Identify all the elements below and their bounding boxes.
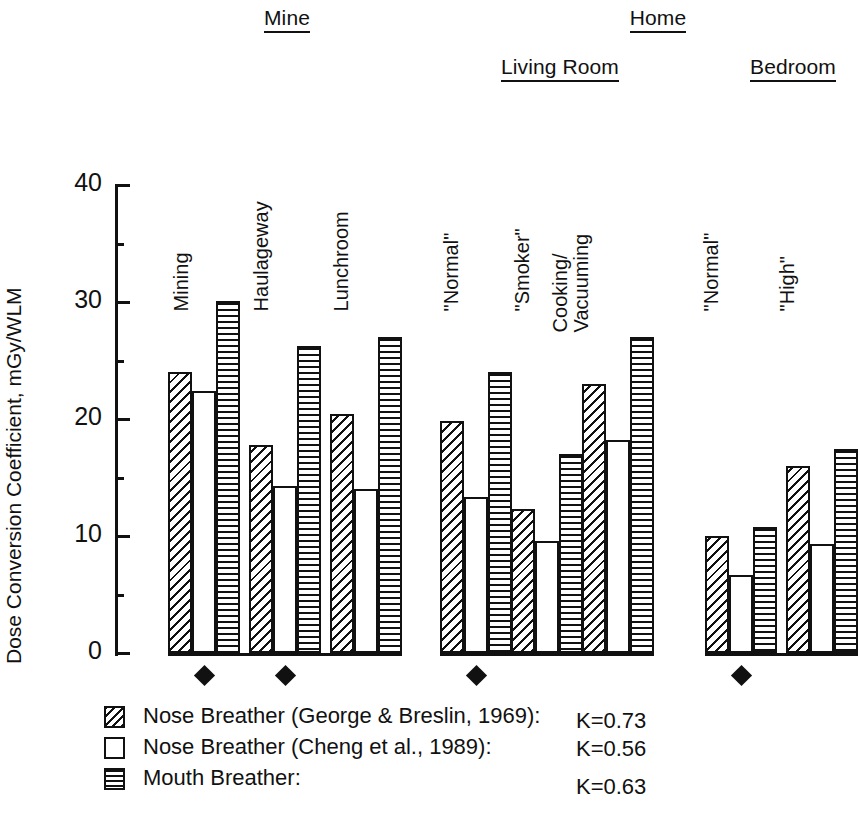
bar-nose-breather-george-breslin (249, 445, 273, 653)
bar-nose-breather-george-breslin (168, 372, 192, 653)
bar-nose-breather-george-breslin (330, 414, 354, 653)
category-label-lr-smoker-text: "Smoker" (511, 228, 533, 311)
y-axis-title: Dose Conversion Coefficient, mGy/WLM (2, 287, 26, 664)
legend: Nose Breather (George & Breslin, 1969): … (104, 703, 804, 796)
diamond-marker-icon (466, 665, 487, 686)
y-tick-0-text: 0 (88, 636, 102, 664)
bar-nose-breather-cheng (464, 497, 488, 653)
bar-mouth-breather (488, 372, 512, 653)
horizontal-stripe-swatch-icon (104, 768, 125, 790)
bar-mouth-breather (559, 454, 583, 653)
y-tick-0: 0 (42, 636, 102, 665)
bar-mouth-breather (216, 301, 240, 653)
category-label-haulageway: Haulageway (251, 201, 272, 311)
bar-nose-breather-cheng (729, 575, 753, 653)
legend-row-label: Mouth Breather: (143, 765, 301, 791)
y-tick-20-text: 20 (74, 402, 102, 430)
bar-mouth-breather (297, 346, 321, 653)
legend-row: Nose Breather (Cheng et al., 1989): K=0.… (104, 734, 804, 765)
open-white-swatch-icon (104, 737, 125, 759)
bar-nose-breather-george-breslin (582, 384, 606, 653)
category-label-lr-normal: "Normal" (441, 233, 462, 312)
category-label-lr-smoker: "Smoker" (512, 228, 533, 311)
legend-row-label: Nose Breather (George & Breslin, 1969): (143, 703, 540, 729)
header-living-room-label: Living Room (501, 55, 619, 82)
legend-row-label: Nose Breather (Cheng et al., 1989): (143, 734, 492, 760)
bar-nose-breather-george-breslin (786, 466, 810, 653)
legend-row-k: K=0.63 (576, 774, 646, 800)
y-tick-20: 20 (42, 402, 102, 431)
category-label-vacuuming-text: Vacuuming (571, 234, 592, 333)
x-axis-baseline (705, 653, 858, 656)
diamond-marker-icon (731, 665, 752, 686)
legend-row-k: K=0.73 (576, 708, 646, 734)
y-axis-minor-tick (115, 360, 124, 363)
x-axis-baseline (440, 653, 654, 656)
bar-mouth-breather (378, 337, 402, 653)
category-label-cooking-vacuuming: Cooking/ Vacuuming (550, 234, 592, 333)
bar-nose-breather-cheng (810, 544, 834, 653)
bar-nose-breather-george-breslin (440, 421, 464, 653)
y-tick-30-text: 30 (74, 285, 102, 313)
legend-row-k: K=0.56 (576, 736, 646, 762)
diamond-marker-icon (194, 665, 215, 686)
category-label-bd-normal: "Normal" (701, 233, 722, 312)
y-axis-major-tick (115, 301, 130, 304)
category-label-lunchroom: Lunchroom (331, 211, 352, 311)
category-label-bd-high-text: "High" (776, 256, 798, 311)
category-label-mining-text: Mining (170, 252, 192, 311)
y-tick-10-text: 10 (74, 519, 102, 547)
bar-mouth-breather (753, 527, 777, 653)
y-axis-major-tick (115, 652, 130, 655)
bar-nose-breather-cheng (606, 440, 630, 653)
y-tick-40: 40 (42, 168, 102, 197)
header-mine: Mine (232, 6, 342, 33)
bar-nose-breather-cheng (354, 489, 378, 653)
category-label-cooking-text: Cooking/ (550, 234, 571, 333)
header-bedroom-label: Bedroom (750, 55, 836, 82)
x-axis-baseline (168, 653, 402, 656)
diamond-marker-icon (275, 665, 296, 686)
bar-nose-breather-cheng (192, 391, 216, 653)
category-label-mining: Mining (171, 252, 192, 311)
header-living-room: Living Room (460, 55, 660, 82)
y-axis-minor-tick (115, 243, 124, 246)
y-axis-spine (115, 185, 118, 656)
bar-nose-breather-cheng (273, 486, 297, 653)
y-axis-minor-tick (115, 594, 124, 597)
y-tick-40-text: 40 (74, 168, 102, 196)
header-home-label: Home (630, 6, 686, 33)
header-mine-label: Mine (264, 6, 310, 33)
y-axis-minor-tick (115, 477, 124, 480)
y-axis-major-tick (115, 418, 130, 421)
bar-mouth-breather (834, 449, 858, 653)
diagonal-hatch-swatch-icon (104, 706, 125, 728)
y-tick-30: 30 (42, 285, 102, 314)
legend-row: Nose Breather (George & Breslin, 1969): … (104, 703, 804, 734)
bar-nose-breather-george-breslin (705, 536, 729, 653)
bar-nose-breather-cheng (535, 541, 559, 653)
header-home: Home (598, 6, 718, 33)
y-axis-title-text: Dose Conversion Coefficient, mGy/WLM (2, 287, 25, 664)
category-label-bd-high: "High" (777, 256, 798, 311)
bar-nose-breather-george-breslin (511, 509, 535, 653)
header-bedroom: Bedroom (718, 55, 860, 82)
category-label-lr-normal-text: "Normal" (440, 233, 462, 312)
y-tick-10: 10 (42, 519, 102, 548)
legend-row: Mouth Breather: K=0.63 (104, 765, 804, 796)
y-axis-major-tick (115, 535, 130, 538)
y-axis-major-tick (115, 184, 130, 187)
category-label-lunchroom-text: Lunchroom (330, 211, 352, 311)
category-label-bd-normal-text: "Normal" (700, 233, 722, 312)
category-label-haulageway-text: Haulageway (250, 201, 272, 311)
bar-mouth-breather (630, 337, 654, 653)
